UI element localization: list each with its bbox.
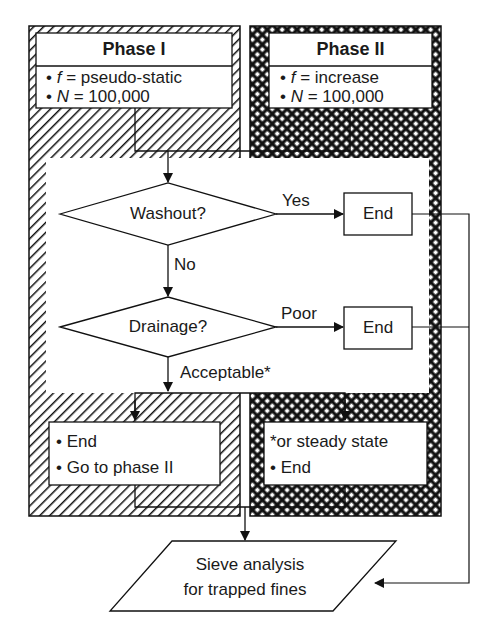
bullet-icon: •	[56, 458, 62, 477]
drainage-label: Drainage?	[110, 317, 226, 337]
washout-no-label: No	[174, 255, 196, 275]
phase1-outcome-end: • End	[56, 432, 97, 452]
bullet-icon: •	[270, 458, 276, 477]
phase2-bullet-n: • N = 100,000	[280, 87, 384, 107]
bullet-icon: •	[46, 68, 52, 87]
drainage-poor-label: Poor	[281, 304, 317, 324]
phase1-outcome-go-phase2: • Go to phase II	[56, 458, 173, 478]
bullet-icon: •	[56, 432, 62, 451]
sieve-analysis-box	[110, 541, 396, 611]
sieve-analysis-line2: for trapped fines	[140, 580, 350, 600]
bullet-icon: •	[280, 87, 286, 106]
phase2-title: Phase II	[269, 39, 432, 59]
drainage-end-label: End	[344, 318, 412, 338]
phase2-outcome-end: • End	[270, 458, 311, 478]
washout-end-label: End	[344, 204, 412, 224]
phase1-title: Phase I	[36, 39, 232, 59]
phase1-bullet-f: • f = pseudo-static	[46, 68, 182, 88]
phase1-bullet-n: • N = 100,000	[46, 87, 150, 107]
bullet-icon: •	[280, 68, 286, 87]
drainage-acceptable-label: Acceptable*	[180, 363, 271, 383]
phase2-bullet-f: • f = increase	[280, 68, 379, 88]
washout-label: Washout?	[110, 204, 226, 224]
sieve-analysis-line1: Sieve analysis	[150, 555, 350, 575]
bullet-icon: •	[46, 87, 52, 106]
phase2-outcome-note: *or steady state	[270, 432, 388, 452]
washout-yes-label: Yes	[282, 191, 310, 211]
